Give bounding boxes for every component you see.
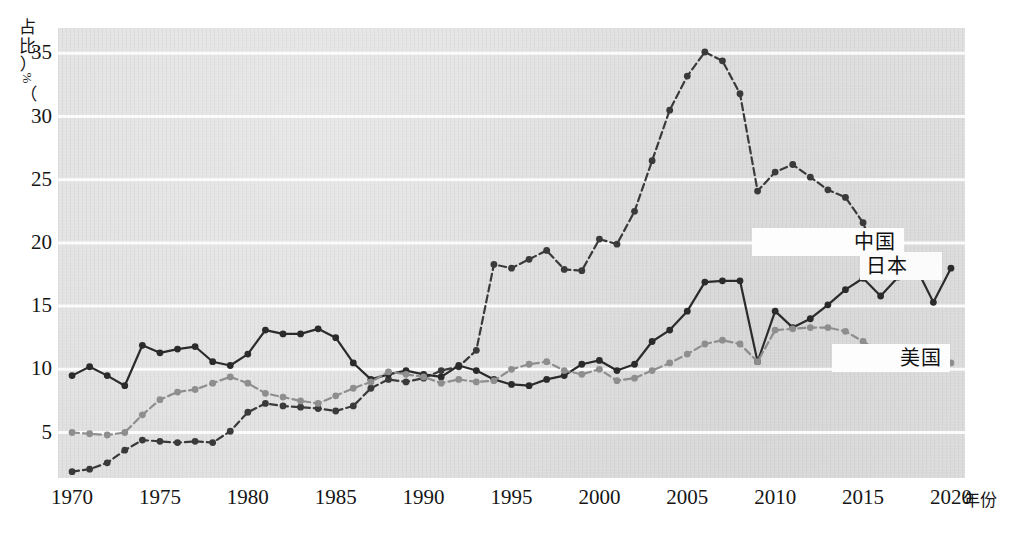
data-point [631,208,638,215]
data-point [121,382,128,389]
data-point [192,438,199,445]
data-point [332,392,339,399]
y-tick-label: 30 [6,106,52,127]
data-point [157,396,164,403]
data-point [631,361,638,368]
data-point [244,351,251,358]
data-point [139,437,146,444]
data-point [596,366,603,373]
data-point [104,459,111,466]
data-point [403,371,410,378]
data-point [614,377,621,384]
data-point [526,256,533,263]
data-point [473,379,480,386]
data-point [666,107,673,114]
data-point [578,267,585,274]
data-point [614,367,621,374]
data-point [561,367,568,374]
data-point [526,382,533,389]
data-point [121,429,128,436]
data-point [543,376,550,383]
y-tick-label: 35 [6,42,52,63]
data-point [385,368,392,375]
data-point [139,411,146,418]
data-point [192,343,199,350]
data-point [227,373,234,380]
data-point [420,373,427,380]
data-point [227,362,234,369]
data-point [280,394,287,401]
data-point [842,328,849,335]
data-point [842,286,849,293]
data-point [209,358,216,365]
data-point [930,299,937,306]
x-tick-label: 1985 [301,486,371,508]
data-point [666,327,673,334]
data-point [473,347,480,354]
data-point [297,331,304,338]
data-point [86,430,93,437]
data-point [157,349,164,356]
data-point [438,380,445,387]
data-point [157,438,164,445]
data-point [737,341,744,348]
data-point [244,409,251,416]
data-point [877,293,884,300]
data-point [561,266,568,273]
x-axis-tick-labels: 1970197519801985199019952000200520102015… [0,486,1015,516]
data-point [86,466,93,473]
data-point [807,324,814,331]
data-point [578,371,585,378]
data-point [209,380,216,387]
data-point [948,265,955,272]
x-tick-label: 2005 [652,486,722,508]
data-point [350,403,357,410]
data-point [649,157,656,164]
data-point [121,447,128,454]
x-tick-label: 1990 [389,486,459,508]
data-point [719,277,726,284]
series-label-usa: 美国 [832,344,950,372]
data-point [684,351,691,358]
data-point [684,73,691,80]
data-point [104,432,111,439]
data-point [491,377,498,384]
data-point [825,186,832,193]
y-tick-label: 25 [6,169,52,190]
data-point [701,341,708,348]
y-tick-label: 10 [6,358,52,379]
data-point [297,404,304,411]
data-point [403,379,410,386]
series-label-japan: 日本 [860,252,942,280]
data-point [438,373,445,380]
data-point [438,367,445,374]
data-point [754,358,761,365]
x-tick-label: 1975 [125,486,195,508]
x-tick-label: 2000 [564,486,634,508]
x-tick-label: 1970 [37,486,107,508]
data-point [86,363,93,370]
data-point [174,389,181,396]
data-point [543,247,550,254]
data-point [350,360,357,367]
x-tick-label: 2015 [828,486,898,508]
data-point [754,188,761,195]
data-point [772,327,779,334]
data-point [508,265,515,272]
data-point [315,325,322,332]
data-point [578,361,585,368]
data-point [649,338,656,345]
data-point [860,219,867,226]
x-tick-label: 1980 [213,486,283,508]
data-point [192,386,199,393]
series-layer [69,49,955,475]
data-point [789,325,796,332]
y-tick-label: 20 [6,232,52,253]
data-point [772,308,779,315]
data-point [737,277,744,284]
data-point [825,324,832,331]
series-china [69,49,920,475]
y-axis-tick-labels: 3530252015105 [0,28,52,478]
data-point [614,241,621,248]
data-point [174,439,181,446]
